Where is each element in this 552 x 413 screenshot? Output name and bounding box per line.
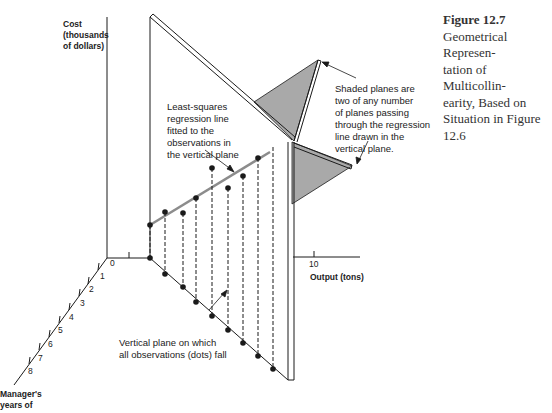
cost-axis-label: Cost (thousands of dollars) (63, 19, 109, 52)
shaded-planes-annotation: Shaded planes are two of any number of p… (335, 83, 430, 155)
manager-tick-2: 2 (89, 284, 94, 294)
observation-stems (150, 147, 273, 369)
manager-tick-1: 1 (100, 271, 105, 281)
figure-number: Figure 12.7 (443, 12, 551, 29)
manager-tick-8: 8 (28, 366, 33, 376)
regression-line (150, 152, 270, 225)
manager-axis-label: Manager's years of (0, 389, 42, 411)
manager-tick-7: 7 (38, 353, 43, 363)
regression-annotation: Least-squares regression line fitted to … (167, 101, 239, 161)
figure-caption: Figure 12.7 Geometrical Represen- tation… (443, 12, 551, 144)
manager-tick-3: 3 (80, 298, 85, 308)
manager-axis-ticks (29, 263, 99, 364)
vertical-plane (150, 14, 352, 380)
output-axis-label: Output (tons) (310, 272, 364, 283)
manager-tick-6: 6 (48, 339, 53, 349)
output-tick-10: 10 (309, 259, 318, 269)
manager-tick-5: 5 (58, 325, 63, 335)
manager-tick-4: 4 (69, 312, 74, 322)
manager-tick-0: 0 (110, 258, 115, 268)
vertical-plane-annotation: Vertical plane on which all observations… (119, 337, 227, 361)
